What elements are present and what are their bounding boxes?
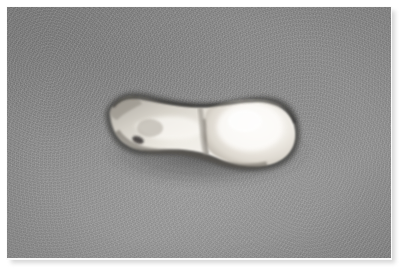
screenshot-root [0, 0, 405, 274]
photo-vignette [7, 7, 391, 258]
photograph [7, 7, 391, 258]
